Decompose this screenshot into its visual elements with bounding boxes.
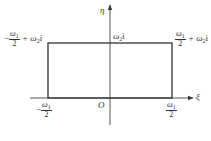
eta-axis-label: η: [100, 6, 104, 15]
diagram-canvas: [0, 0, 211, 141]
corner-label-top-middle: ω2i: [113, 32, 125, 42]
xi-axis-label: ξ: [196, 93, 200, 102]
corner-label-top-right: ω12 + ω2i: [175, 30, 208, 48]
corner-label-top-left: −ω12 + ω2i: [4, 30, 42, 48]
origin-label: O: [98, 101, 105, 110]
corner-label-bottom-right: ω12: [166, 101, 177, 119]
corner-label-bottom-left: −ω12: [36, 101, 52, 119]
